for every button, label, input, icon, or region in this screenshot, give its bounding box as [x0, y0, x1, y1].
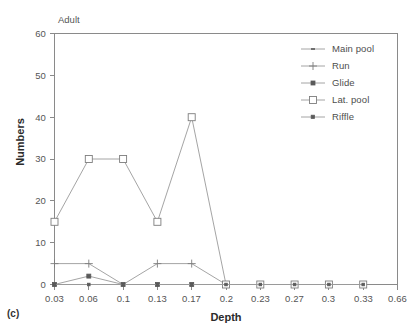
legend-item-glide: Glide — [300, 74, 406, 91]
legend-label-glide: Glide — [332, 77, 355, 88]
series-riffle — [53, 283, 364, 286]
x-axis-label: Depth — [54, 311, 398, 323]
legend-item-riffle: Riffle — [300, 108, 406, 125]
x-tick-label-2: 0.06 — [71, 293, 106, 304]
y-tick-label-50: 50 — [18, 70, 46, 81]
legend-item-lat-pool: Lat. pool — [300, 91, 406, 108]
legend-label-main-pool: Main pool — [332, 43, 374, 54]
legend-label-run: Run — [332, 60, 350, 71]
x-tick-label-10: 0.33 — [346, 293, 381, 304]
chart-title: Adult — [58, 14, 80, 25]
x-tick-label-9: 0.3 — [311, 293, 346, 304]
legend-marker-open-square-icon — [300, 94, 326, 106]
legend-marker-filled-dot-icon — [300, 77, 326, 89]
legend-label-riffle: Riffle — [332, 111, 354, 122]
x-tick-label-3: 0.1 — [106, 293, 141, 304]
y-tick-label-60: 60 — [18, 28, 46, 39]
chart-figure: Adult Numbers Depth (c) 0 10 20 30 40 50… — [0, 0, 414, 331]
legend-label-lat-pool: Lat. pool — [332, 94, 369, 105]
x-tick-label-8: 0.27 — [277, 293, 312, 304]
y-tick-label-40: 40 — [18, 112, 46, 123]
x-tick-label-11: 0.66 — [380, 293, 414, 304]
legend-item-main-pool: Main pool — [300, 40, 406, 57]
legend-marker-dash-icon — [300, 43, 326, 55]
series-lat-pool — [51, 114, 367, 288]
y-axis-ticks — [50, 34, 55, 285]
x-tick-label-7: 0.23 — [243, 293, 278, 304]
legend-marker-plus-icon — [300, 60, 326, 72]
y-tick-label-0: 0 — [18, 279, 46, 290]
panel-label: (c) — [7, 308, 19, 319]
x-tick-label-4: 0.13 — [140, 293, 175, 304]
x-tick-label-5: 0.17 — [174, 293, 209, 304]
chart-legend: Main pool Run Glide Lat. pool — [300, 40, 406, 125]
y-tick-label-10: 10 — [18, 237, 46, 248]
series-run — [51, 260, 364, 285]
x-tick-label-6: 0.2 — [209, 293, 244, 304]
x-tick-label-1: 0.03 — [37, 293, 72, 304]
legend-marker-small-filled-square-icon — [300, 111, 326, 123]
legend-item-run: Run — [300, 57, 406, 74]
y-tick-label-20: 20 — [18, 195, 46, 206]
y-tick-label-30: 30 — [18, 153, 46, 164]
